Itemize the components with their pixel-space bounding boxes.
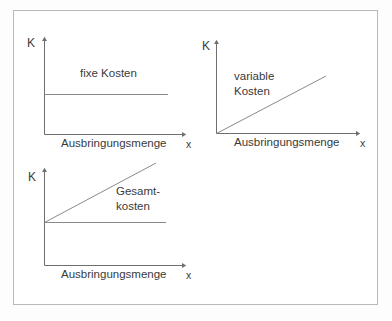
- chart-variable-costs-line: [217, 76, 327, 134]
- chart-variable-costs-series-label-line2: Kosten: [234, 85, 270, 97]
- chart-variable-costs-y-axis-label: K: [202, 40, 210, 53]
- diagram-lines: [0, 0, 392, 321]
- chart-fixed-costs-x-axis-caption: Ausbringungsmenge: [61, 137, 167, 149]
- chart-total-costs-series-label-line1: Gesamt-: [116, 185, 160, 197]
- chart-variable-costs-x-axis-caption: Ausbringungsmenge: [234, 136, 340, 148]
- chart-fixed-costs-series-label: fixe Kosten: [80, 67, 137, 79]
- chart-total-costs-y-axis-label: K: [28, 171, 36, 184]
- chart-fixed-costs-axes: [45, 39, 185, 135]
- chart-variable-costs-series-label-line1: variable: [234, 70, 274, 82]
- chart-total-costs-x-axis-label: x: [186, 270, 191, 281]
- chart-total-costs-x-axis-caption: Ausbringungsmenge: [61, 268, 167, 280]
- chart-fixed-costs-x-axis-label: x: [186, 139, 191, 150]
- chart-total-costs-series-label-line2: kosten: [116, 200, 150, 212]
- chart-variable-costs-x-axis-label: x: [360, 138, 365, 149]
- chart-total-costs-axes: [45, 170, 185, 266]
- chart-fixed-costs-y-axis-label: K: [27, 37, 35, 50]
- scanned-figure-sheet: K fixe Kosten Ausbringungsmenge x K vari…: [0, 0, 392, 321]
